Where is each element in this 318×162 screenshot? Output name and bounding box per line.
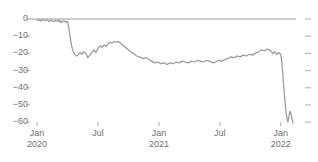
x-tick-month-label: Jan [27, 128, 47, 139]
x-tick-year-label: 2021 [149, 139, 169, 150]
x-tick-month-label: Jul [92, 128, 104, 139]
x-tick-month-label: Jan [149, 128, 169, 139]
x-tick-label-group: Jul [214, 128, 226, 139]
x-tick-year-label: 2022 [271, 139, 291, 150]
x-axis-labels: Jan2020JulJan2021JulJan2022 [0, 0, 318, 162]
x-tick-label-group: Jan2022 [271, 128, 291, 150]
x-tick-month-label: Jul [214, 128, 226, 139]
x-tick-label-group: Jan2020 [27, 128, 47, 150]
x-tick-month-label: Jan [271, 128, 291, 139]
x-tick-year-label: 2020 [27, 139, 47, 150]
chart-figure: 0−10−20−30−40−50−60 Jan2020JulJan2021Jul… [0, 0, 318, 162]
x-tick-label-group: Jul [92, 128, 104, 139]
x-tick-label-group: Jan2021 [149, 128, 169, 150]
